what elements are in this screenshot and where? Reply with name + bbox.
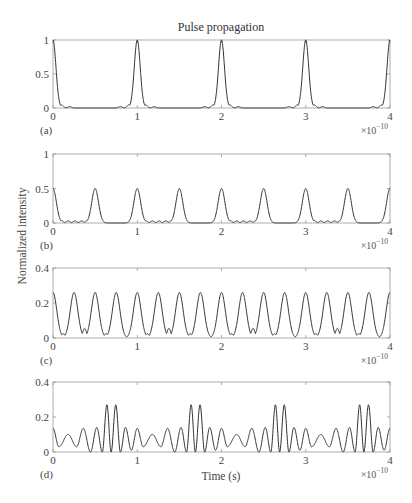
panel-label: (d)	[40, 468, 53, 481]
y-tick-label: 0.5	[35, 183, 49, 195]
panel-a: 0123400.51(a)×10−10	[35, 34, 393, 137]
panel-b: 0123400.51(b)×10−10	[35, 148, 393, 252]
x-tick-label: 4	[387, 110, 393, 122]
pulse-propagation-figure: Pulse propagation Normalized intensity T…	[0, 0, 412, 503]
intensity-curve	[53, 40, 390, 108]
x-tick-label: 4	[387, 340, 393, 352]
x-tick-label: 0	[50, 454, 56, 466]
axes-frame	[53, 40, 390, 108]
y-tick-label: 0	[44, 446, 50, 458]
x-tick-label: 2	[219, 340, 225, 352]
y-tick-label: 1	[44, 148, 50, 160]
x-axis-label: Time (s)	[202, 470, 241, 483]
x-tick-label: 1	[135, 225, 141, 237]
x-tick-label: 2	[219, 110, 225, 122]
x-tick-label: 2	[219, 225, 225, 237]
intensity-curve	[53, 405, 390, 452]
y-tick-label: 0	[44, 332, 50, 344]
x-tick-label: 1	[135, 110, 141, 122]
panel-label: (b)	[40, 239, 53, 252]
y-tick-label: 0	[44, 102, 50, 114]
panels-group: 0123400.51(a)×10−100123400.51(b)×10−1001…	[35, 34, 393, 481]
x-multiplier: ×10−10	[361, 466, 389, 480]
panel-c: 0123400.20.4(c)×10−10	[35, 262, 393, 367]
y-tick-label: 0	[44, 217, 50, 229]
y-axis-label: Normalized intensity	[16, 187, 29, 284]
panel-label: (a)	[40, 124, 53, 137]
x-tick-label: 1	[135, 454, 141, 466]
x-tick-label: 0	[50, 110, 56, 122]
x-multiplier: ×10−10	[361, 237, 389, 251]
x-tick-label: 0	[50, 225, 56, 237]
x-multiplier: ×10−10	[361, 352, 389, 366]
intensity-curve	[53, 293, 390, 338]
x-tick-label: 3	[303, 454, 309, 466]
y-tick-label: 0.2	[35, 297, 49, 309]
x-multiplier: ×10−10	[361, 122, 389, 136]
panel-label: (c)	[40, 354, 53, 367]
y-tick-label: 0.4	[35, 262, 49, 274]
x-tick-label: 1	[135, 340, 141, 352]
y-tick-label: 0.4	[35, 376, 49, 388]
panel-d: 0123400.20.4(d)×10−10	[35, 376, 393, 481]
axes-frame	[53, 268, 390, 338]
x-tick-label: 0	[50, 340, 56, 352]
y-tick-label: 0.2	[35, 411, 49, 423]
x-tick-label: 2	[219, 454, 225, 466]
intensity-curve	[53, 189, 390, 224]
x-tick-label: 3	[303, 340, 309, 352]
y-tick-label: 1	[44, 34, 50, 46]
x-tick-label: 4	[387, 454, 393, 466]
y-tick-label: 0.5	[35, 68, 49, 80]
x-tick-label: 3	[303, 225, 309, 237]
figure-title: Pulse propagation	[178, 20, 264, 34]
x-tick-label: 3	[303, 110, 309, 122]
x-tick-label: 4	[387, 225, 393, 237]
